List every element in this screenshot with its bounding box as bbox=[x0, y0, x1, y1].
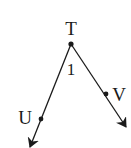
vertex-label-t: T bbox=[65, 18, 77, 39]
point-u bbox=[39, 117, 44, 122]
ray-tu bbox=[30, 44, 71, 147]
angle-diagram: T 1 U V bbox=[0, 0, 131, 148]
point-v bbox=[104, 92, 109, 97]
angle-label-1: 1 bbox=[67, 60, 76, 79]
point-label-u: U bbox=[18, 107, 32, 128]
point-label-v: V bbox=[112, 84, 126, 105]
vertex-point-t bbox=[68, 41, 73, 46]
